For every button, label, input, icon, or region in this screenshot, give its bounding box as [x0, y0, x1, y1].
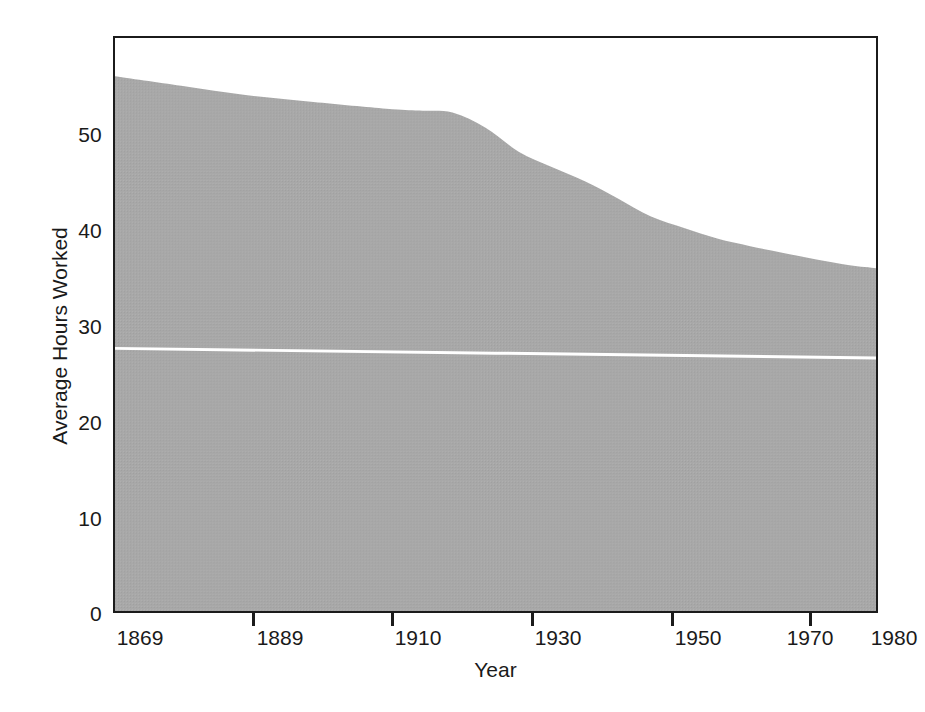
- x-tick-mark-1970: [809, 613, 812, 626]
- y-tick-label-10: 10: [42, 508, 102, 529]
- y-tick-label-40: 40: [42, 220, 102, 241]
- x-tick-label-1910: 1910: [395, 626, 442, 649]
- x-tick-mark-1930: [531, 613, 534, 626]
- x-tick-mark-1950: [671, 613, 674, 626]
- x-tick-label-1869: 1869: [117, 626, 164, 649]
- x-tick-label-1970: 1970: [787, 626, 834, 649]
- area-series-average-hours-worked: [115, 76, 876, 611]
- y-tick-label-0: 0: [42, 603, 102, 624]
- x-tick-label-1930: 1930: [535, 626, 582, 649]
- x-tick-mark-1910: [391, 613, 394, 626]
- chart-figure: Average Hours Worked 50 40 30 20 10 0: [0, 0, 925, 712]
- x-tick-label-1889: 1889: [257, 626, 304, 649]
- x-tick-label-1980: 1980: [871, 626, 918, 649]
- x-tick-mark-1889: [252, 613, 255, 626]
- y-tick-label-50: 50: [42, 124, 102, 145]
- plot-canvas: [115, 38, 876, 611]
- x-tick-label-1950: 1950: [675, 626, 722, 649]
- plot-area: [113, 36, 878, 613]
- x-axis-title: Year: [113, 658, 878, 682]
- y-tick-label-20: 20: [42, 412, 102, 433]
- y-tick-label-30: 30: [42, 316, 102, 337]
